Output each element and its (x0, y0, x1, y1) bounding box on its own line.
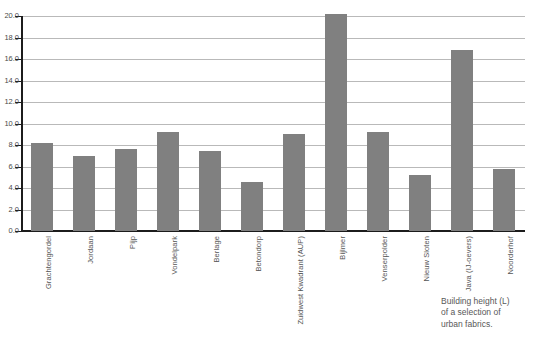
bar (325, 14, 347, 231)
y-tick-label: 14.0 (4, 77, 19, 85)
gridline (21, 59, 525, 60)
y-tick-label: 8.0 (9, 141, 19, 149)
bar (493, 169, 515, 231)
x-axis-label: Noorderhof (507, 236, 515, 275)
gridline (21, 167, 525, 168)
bar (283, 134, 305, 231)
x-axis-label: Pijp (129, 236, 137, 249)
x-axis-label: Jordaan (87, 236, 95, 264)
bar (73, 156, 95, 231)
bar (199, 151, 221, 231)
x-axis-label: Vondelpark (171, 236, 179, 275)
gridline (21, 16, 525, 17)
y-tick-label: 4.0 (9, 184, 19, 192)
bar (115, 149, 137, 231)
plot-area (21, 16, 525, 231)
bar (241, 182, 263, 231)
gridline (21, 81, 525, 82)
bar (409, 175, 431, 231)
y-tick-label: 6.0 (9, 163, 19, 171)
y-tick-label: 10.0 (4, 120, 19, 128)
y-tick-label: 18.0 (4, 34, 19, 42)
y-tick-label: 16.0 (4, 55, 19, 63)
x-axis-label: Nieuw Sloten (423, 236, 431, 281)
chart-caption: Building height (L) of a selection of ur… (441, 296, 545, 330)
gridline (21, 102, 525, 103)
gridline (21, 38, 525, 39)
y-tick-label: 2.0 (9, 206, 19, 214)
x-axis-label: Java (IJ-oevers) (465, 236, 473, 291)
gridline (21, 124, 525, 125)
bar (367, 132, 389, 231)
gridline (21, 210, 525, 211)
gridline (21, 188, 525, 189)
axis-baseline (21, 230, 525, 232)
caption-line-3: urban fabrics. (441, 319, 545, 330)
x-axis-label: Grachtengordel (45, 236, 53, 289)
x-axis-label: Berlage (213, 236, 221, 263)
y-tick-label: 20.0 (4, 12, 19, 20)
caption-line-2: of a selection of (441, 307, 545, 318)
bar (451, 50, 473, 231)
bar-chart: 0.02.04.06.08.010.012.014.016.018.020.0 … (0, 0, 548, 341)
gridline (21, 145, 525, 146)
bar (157, 132, 179, 231)
caption-line-1: Building height (L) (441, 296, 545, 307)
y-tick-label: 12.0 (4, 98, 19, 106)
x-axis-label: Betondorp (255, 236, 263, 272)
x-axis-label: Bijlmer (339, 236, 347, 260)
x-axis-label: Zuidwest Kwadrant (AUP) (297, 236, 305, 325)
y-tick-label: 0.0 (9, 227, 19, 235)
x-axis-label: Venserpolder (381, 236, 389, 281)
bar (31, 143, 53, 231)
